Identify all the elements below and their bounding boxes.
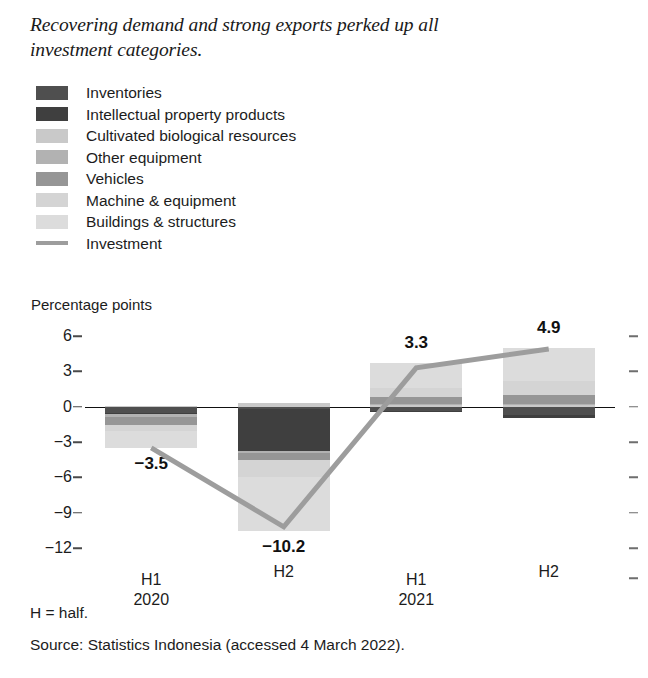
- legend-color-swatch-icon: [36, 129, 68, 143]
- y-axis-tick-mark: [73, 335, 82, 337]
- footnote: H = half.: [30, 604, 88, 622]
- chart-page: Recovering demand and strong exports per…: [0, 0, 648, 678]
- legend-item[interactable]: Cultivated biological resources: [36, 125, 296, 147]
- x-axis-tick-label: H2: [274, 562, 294, 582]
- chart-legend: InventoriesIntellectual property product…: [36, 82, 296, 254]
- legend-item[interactable]: Buildings & structures: [36, 211, 296, 233]
- legend-item-label: Investment: [86, 236, 162, 252]
- legend-color-swatch-icon: [36, 193, 68, 207]
- investment-line-series: [85, 336, 615, 548]
- legend-item[interactable]: Vehicles: [36, 168, 296, 190]
- y-axis-tick-mark: [73, 371, 82, 373]
- y-axis-title: Percentage points: [31, 296, 152, 313]
- x-axis-year-label: 2021: [398, 590, 434, 610]
- right-axis-tick-mark: [629, 512, 638, 514]
- right-axis-tick-mark: [629, 371, 638, 373]
- legend-item-label: Other equipment: [86, 150, 201, 166]
- right-axis-tick-mark: [629, 406, 638, 408]
- legend-item[interactable]: Machine & equipment: [36, 190, 296, 212]
- right-axis-tick-mark: [629, 547, 638, 549]
- legend-item-label: Inventories: [86, 85, 162, 101]
- y-axis-tick-mark: [73, 477, 82, 479]
- x-axis-tick-label: H12020: [133, 570, 169, 610]
- legend-line-marker-icon: [36, 241, 68, 245]
- legend-color-swatch-icon: [36, 150, 68, 164]
- legend-item[interactable]: Intellectual property products: [36, 104, 296, 126]
- x-axis-tick-label: H12021: [398, 570, 434, 610]
- source-note: Source: Statistics Indonesia (accessed 4…: [30, 636, 405, 654]
- legend-color-swatch-icon: [36, 172, 68, 186]
- y-axis-tick-mark: [73, 512, 82, 514]
- legend-item[interactable]: Inventories: [36, 82, 296, 104]
- investment-line-path: [151, 349, 549, 527]
- right-axis-tick-mark: [629, 577, 638, 579]
- x-axis-half-label: H2: [539, 562, 559, 582]
- x-axis-half-label: H1: [398, 570, 434, 590]
- right-axis-tick-mark: [629, 477, 638, 479]
- legend-item-label: Vehicles: [86, 171, 144, 187]
- legend-color-swatch-icon: [36, 215, 68, 229]
- legend-item[interactable]: Investment: [36, 233, 296, 255]
- y-axis-tick-mark: [73, 547, 82, 549]
- right-axis-tick-mark: [629, 441, 638, 443]
- legend-item-label: Buildings & structures: [86, 214, 236, 230]
- legend-color-swatch-icon: [36, 86, 68, 100]
- legend-item-label: Intellectual property products: [86, 107, 285, 123]
- right-axis-tick-mark: [629, 335, 638, 337]
- y-axis-tick-mark: [73, 406, 82, 408]
- x-axis-half-label: H1: [133, 570, 169, 590]
- plot-area: 630−3−6−9−12−3.5−10.23.34.9: [85, 336, 615, 548]
- x-axis-year-label: 2020: [133, 590, 169, 610]
- legend-item-label: Machine & equipment: [86, 193, 236, 209]
- legend-item[interactable]: Other equipment: [36, 147, 296, 169]
- page-title: Recovering demand and strong exports per…: [30, 12, 500, 62]
- y-axis-tick-mark: [73, 441, 82, 443]
- x-axis-tick-label: H2: [539, 562, 559, 582]
- legend-item-label: Cultivated biological resources: [86, 128, 296, 144]
- legend-color-swatch-icon: [36, 107, 68, 121]
- x-axis-half-label: H2: [274, 562, 294, 582]
